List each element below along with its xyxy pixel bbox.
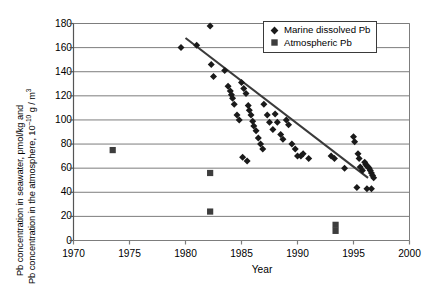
x-tick-label: 1970	[54, 248, 94, 259]
legend-label-marine-dissolved-pb: Marine dissolved Pb	[284, 24, 370, 37]
x-tick-label: 1980	[166, 248, 206, 259]
chart-figure: Pb concentration in seawater, pmol/kg an…	[0, 0, 427, 295]
square-marker-icon	[268, 38, 281, 47]
axis-frame	[74, 24, 410, 241]
series-atmospheric-pb	[110, 147, 339, 234]
x-tick-label: 1995	[334, 248, 374, 259]
x-tick-label: 1985	[222, 248, 262, 259]
x-tick-label: 1975	[110, 248, 150, 259]
diamond-marker-icon	[268, 26, 281, 35]
legend: Marine dissolved Pb Atmospheric Pb	[263, 21, 377, 53]
x-tick-label: 2000	[390, 248, 427, 259]
legend-item-marine-dissolved-pb: Marine dissolved Pb	[268, 24, 370, 37]
trend-line	[186, 38, 369, 178]
x-tick-label: 1990	[278, 248, 318, 259]
x-axis-title: Year	[222, 264, 302, 275]
legend-label-atmospheric-pb: Atmospheric Pb	[284, 37, 352, 50]
x-axis-ticks	[74, 241, 410, 245]
legend-item-atmospheric-pb: Atmospheric Pb	[268, 37, 370, 50]
